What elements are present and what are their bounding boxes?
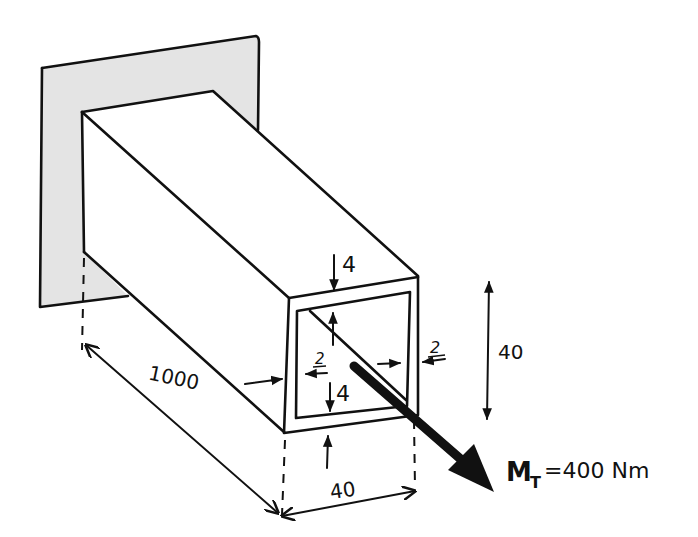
- height-label: 40: [498, 340, 523, 364]
- torque-vector-arrow: [354, 366, 494, 492]
- left-wall-label: 2: [315, 350, 325, 368]
- right-wall-thickness: 2: [378, 338, 445, 364]
- moment-subscript: T: [530, 473, 541, 492]
- width-dimension: 40: [282, 477, 415, 516]
- length-label: 1000: [147, 361, 202, 395]
- length-dimension: 1000: [86, 345, 278, 513]
- torque-label: M T =400 Nm: [506, 457, 649, 492]
- moment-symbol: M: [506, 457, 532, 487]
- moment-value: =400 Nm: [544, 458, 649, 483]
- right-wall-label: 2: [430, 338, 440, 357]
- bottom-wall-label: 4: [336, 381, 350, 406]
- width-label: 40: [328, 477, 357, 504]
- top-wall-thickness: 4: [333, 252, 356, 345]
- beam-diagram: 1000 40 40 4 4 2 2 M: [0, 0, 698, 537]
- top-wall-label: 4: [342, 252, 356, 277]
- height-dimension: 40: [487, 282, 523, 419]
